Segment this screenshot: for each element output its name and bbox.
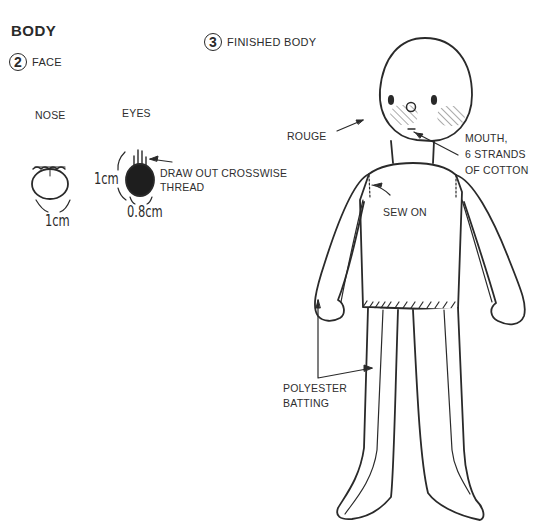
nose-illustration (32, 167, 70, 212)
step-face-heading: 2 FACE (9, 53, 62, 71)
step-label: FINISHED BODY (227, 36, 316, 48)
eye-height-label: 1cm (94, 170, 119, 188)
mouth-label-3: OF COTTON (465, 164, 528, 177)
doll-right-leg (413, 308, 483, 520)
nose-size-label: 1cm (45, 212, 70, 230)
step-number-circle: 3 (204, 33, 222, 51)
step-finished-body-heading: 3 FINISHED BODY (204, 33, 316, 51)
sew-on-label: SEW ON (383, 206, 427, 219)
eyes-label: EYES (122, 107, 151, 120)
doll-right-arm (456, 175, 525, 324)
eye-width-label: 0.8cm (127, 203, 163, 221)
eye-thread-note-1: DRAW OUT CROSSWISE (160, 167, 287, 180)
step-number-circle: 2 (9, 53, 27, 71)
step-label: FACE (32, 56, 62, 68)
section-title: BODY (11, 22, 56, 39)
doll-head (380, 38, 472, 141)
rouge-label: ROUGE (287, 130, 327, 143)
nose-label: NOSE (35, 109, 66, 122)
batting-label-1: POLYESTER (283, 382, 347, 395)
mouth-label-2: 6 STRANDS (465, 148, 526, 161)
batting-label-2: BATTING (283, 397, 329, 410)
doll-left-leg (337, 308, 398, 519)
doll-diagram (0, 0, 555, 524)
eye-thread-note-2: THREAD (160, 181, 204, 194)
mouth-label-1: MOUTH, (465, 132, 508, 145)
